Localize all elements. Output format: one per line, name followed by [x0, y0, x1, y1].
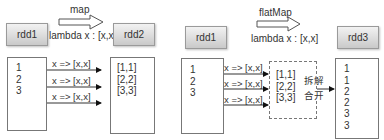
map-transform-label: x => [x,x] [52, 92, 91, 102]
flatmap-target-row: 1 [344, 75, 350, 86]
flatmap-source-row: 1 [190, 64, 196, 75]
map-target-row: [3,3] [117, 85, 136, 96]
map-operation-label: map [70, 5, 89, 15]
map-target-data-box: [1,1] [2,2] [3,3] [110, 57, 155, 134]
flatten-label-line2: 合开 [304, 91, 324, 101]
map-target-row: [1,1] [117, 62, 136, 73]
map-target-row: [2,2] [117, 74, 136, 85]
map-hollow-arrow-icon [59, 15, 103, 29]
flatmap-source-rdd-header: rdd1 [185, 26, 227, 49]
flatmap-hollow-arrow-icon [257, 17, 300, 31]
flatmap-intermediate-row: [2,2] [276, 81, 295, 92]
flatmap-target-row: 2 [344, 86, 350, 97]
flatmap-transform-label: x => [x,x] [224, 63, 263, 73]
flatmap-intermediate-row: [3,3] [276, 92, 295, 103]
flatmap-target-data-box: 1 1 2 2 3 3 [335, 58, 379, 139]
map-transform-label: x => [x,x] [52, 59, 91, 69]
flatmap-source-data-box: 1 2 3 [181, 58, 224, 134]
map-source-rdd-header: rdd1 [6, 23, 48, 46]
flatmap-lambda-label: lambda x : [x,x] [251, 34, 318, 44]
flatmap-source-row: 3 [190, 87, 196, 98]
flatmap-target-row: 3 [344, 108, 350, 119]
flatmap-target-row: 3 [344, 120, 350, 131]
flatmap-intermediate-row: [1,1] [276, 69, 295, 80]
flatten-label-line1: 拆解 [304, 76, 324, 86]
flatmap-transform-label: x => [x,x] [224, 79, 263, 89]
map-source-data-box: 1 2 3 [7, 57, 47, 131]
map-source-row: 1 [16, 62, 22, 73]
map-source-row: 3 [16, 85, 22, 96]
map-lambda-label: lambda x : [x,x] [49, 31, 116, 41]
flatmap-operation-label: flatMap [259, 8, 292, 18]
flatmap-source-row: 2 [190, 76, 196, 87]
flatmap-transform-label: x => [x,x] [224, 95, 263, 105]
map-transform-label: x => [x,x] [52, 76, 91, 86]
map-target-rdd-header: rdd2 [113, 23, 155, 46]
map-source-row: 2 [16, 74, 22, 85]
flatmap-target-rdd-header: rdd3 [337, 26, 379, 49]
flatmap-target-row: 1 [344, 63, 350, 74]
flatmap-target-row: 2 [344, 97, 350, 108]
